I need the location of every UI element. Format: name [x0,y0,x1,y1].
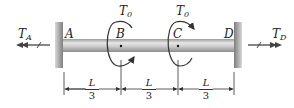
point-b-marker [120,45,122,47]
reaction-arrow-td-icon [248,42,282,48]
dimension-cd-label: L 3 [199,78,213,101]
reaction-td-symbol: T [272,27,280,41]
dimension-bc-label: L 3 [142,78,156,101]
torque-c-subscript: 0 [184,10,189,19]
torque-b-subscript: 0 [127,10,132,19]
right-wall-support [234,22,242,68]
torque-c-symbol: T [176,4,184,18]
point-c-label: C [173,28,182,40]
torque-c-label: T0 [176,5,189,19]
dimension-ab-label: L 3 [85,78,99,101]
dimension-ab-numerator: L [85,78,99,88]
dimension-bc-numerator: L [142,78,156,88]
dimension-ab-denominator: 3 [85,91,99,101]
reaction-arrow-ta-icon [16,42,50,48]
point-a-label: A [65,28,74,40]
reaction-ta-subscript: A [26,33,32,42]
dimension-cd-denominator: 3 [199,91,213,101]
reaction-ta-label: TA [18,28,32,42]
point-d-label: D [224,28,234,40]
torque-b-symbol: T [119,4,127,18]
reaction-td-subscript: D [280,33,286,42]
torque-b-label: T0 [119,5,132,19]
point-b-label: B [116,28,125,40]
reaction-ta-symbol: T [18,27,26,41]
point-c-marker [177,45,179,47]
dimension-bc-denominator: 3 [142,91,156,101]
reaction-td-label: TD [272,28,286,42]
shaft [63,39,234,52]
dimension-cd-numerator: L [199,78,213,88]
left-wall-support [55,22,63,68]
